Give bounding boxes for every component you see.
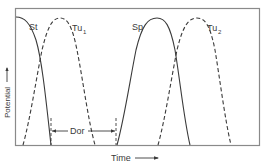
x-axis-arrow-icon — [135, 156, 159, 160]
y-axis-label: Potential — [3, 87, 12, 118]
curve-tu2 — [158, 18, 231, 145]
label-st: St — [29, 22, 38, 32]
curve-sp — [117, 18, 190, 145]
svg-text:1: 1 — [83, 29, 87, 35]
dor-label: Dor — [70, 126, 85, 136]
label-sp: Sp — [132, 22, 143, 32]
svg-text:2: 2 — [218, 29, 222, 35]
svg-text:Tu: Tu — [207, 23, 217, 33]
svg-text:Tu: Tu — [72, 23, 82, 33]
dor-left-arrow-icon — [52, 129, 68, 132]
x-axis-label: Time — [111, 153, 131, 163]
label-tu1: Tu 1 — [72, 23, 87, 35]
y-axis-label-group: Potential — [3, 67, 12, 118]
label-tu2: Tu 2 — [207, 23, 222, 35]
dor-right-arrow-icon — [88, 129, 115, 132]
potential-time-diagram: Dor St Tu 1 Sp Tu 2 Time Potential — [0, 0, 272, 166]
y-axis-arrow-icon — [5, 67, 8, 82]
